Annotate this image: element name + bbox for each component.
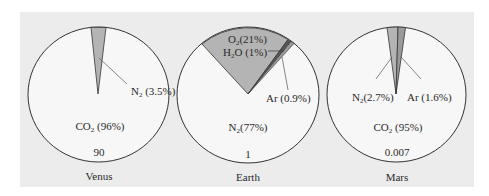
earth-pressure: 1 (245, 148, 251, 160)
mars-title: Mars (386, 171, 409, 183)
mars-co2-label: CO2 (95%) (373, 121, 422, 133)
venus-pressure: 90 (94, 146, 105, 158)
venus-n2-label: N2 (3.5%) (131, 85, 175, 97)
mars-n2-label: N2(2.7%) (352, 91, 394, 103)
venus-co2-label: CO2 (96%) (75, 120, 124, 132)
earth-ar-label: Ar (0.9%) (266, 92, 311, 104)
venus-title: Venus (86, 170, 113, 182)
earth-h2o-label: H2O (1%) (223, 46, 267, 58)
earth-o2-label: O2(21%) (228, 33, 267, 45)
earth-n2-label: N2(77%) (229, 121, 268, 133)
earth-title: Earth (236, 171, 260, 183)
mars-ar-label: Ar (1.6%) (407, 91, 452, 103)
mars-pressure: 0.007 (385, 146, 410, 158)
